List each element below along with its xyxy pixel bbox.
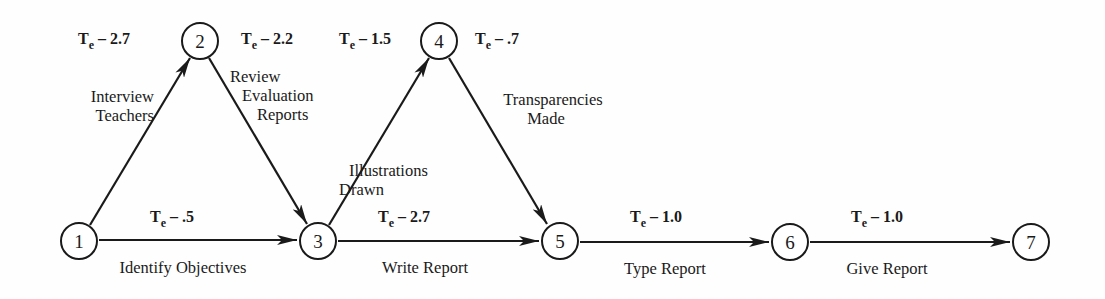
te-subscript: e — [252, 38, 257, 52]
event-node-label: 2 — [195, 32, 205, 51]
te-value: – 2.7 — [98, 30, 130, 47]
activity-label-line: Illustrations — [339, 161, 428, 180]
te-symbol: T — [475, 30, 486, 47]
event-node-label: 4 — [434, 32, 444, 51]
event-node-4: 4 — [420, 22, 458, 60]
te-subscript: e — [389, 216, 394, 230]
te-subscript: e — [641, 216, 646, 230]
activity-label-line: Evaluation — [230, 86, 313, 105]
event-node-label: 5 — [555, 232, 565, 251]
time-estimate-4-5: Te– .7 — [475, 30, 519, 48]
time-estimate-1-3: Te– .5 — [150, 208, 194, 226]
event-node-6: 6 — [771, 223, 809, 261]
te-symbol: T — [630, 208, 641, 225]
event-node-3: 3 — [299, 222, 337, 260]
activity-label-identify-objectives: Identify Objectives — [98, 258, 268, 277]
te-value: – 2.2 — [261, 30, 293, 47]
te-symbol: T — [339, 30, 350, 47]
edge-3-4 — [329, 58, 429, 225]
te-symbol: T — [378, 208, 389, 225]
te-symbol: T — [851, 208, 862, 225]
activity-label-type-report: Type Report — [600, 259, 730, 278]
te-symbol: T — [150, 208, 161, 225]
activity-label-line: Review — [230, 67, 313, 86]
te-value: – .7 — [495, 30, 519, 47]
activity-label-line: Transparencies — [486, 90, 620, 109]
activity-label-interview-teachers: Interview Teachers — [58, 87, 154, 125]
activity-label-line: Reports — [230, 105, 313, 124]
time-estimate-3-4: Te– 1.5 — [339, 30, 391, 48]
event-node-1: 1 — [60, 222, 98, 260]
activity-label-line: Identify Objectives — [98, 258, 268, 277]
event-node-label: 6 — [785, 233, 795, 252]
activity-label-give-report: Give Report — [822, 259, 952, 278]
te-subscript: e — [161, 216, 166, 230]
te-subscript: e — [862, 216, 867, 230]
activity-label-illustrations-drawn: Illustrations Drawn — [339, 161, 428, 199]
activity-label-line: Drawn — [339, 180, 428, 199]
te-symbol: T — [241, 30, 252, 47]
te-value: – 1.0 — [871, 208, 903, 225]
time-estimate-1-2: Te– 2.7 — [78, 30, 130, 48]
event-node-label: 1 — [74, 232, 84, 251]
time-estimate-3-5: Te– 2.7 — [378, 208, 430, 226]
edge-4-5 — [449, 58, 547, 224]
activity-label-transparencies-made: Transparencies Made — [486, 90, 620, 128]
activity-label-line: Give Report — [822, 259, 952, 278]
event-node-5: 5 — [541, 222, 579, 260]
time-estimate-5-6: Te– 1.0 — [630, 208, 682, 226]
te-subscript: e — [350, 38, 355, 52]
time-estimate-2-3: Te– 2.2 — [241, 30, 293, 48]
te-subscript: e — [486, 38, 491, 52]
edge-1-2 — [90, 58, 190, 225]
te-value: – 1.5 — [359, 30, 391, 47]
time-estimate-6-7: Te– 1.0 — [851, 208, 903, 226]
activity-label-review-evaluation-reports: Review Evaluation Reports — [230, 67, 313, 124]
activity-label-line: Write Report — [360, 258, 490, 277]
te-value: – 1.0 — [650, 208, 682, 225]
event-node-label: 7 — [1026, 233, 1036, 252]
activity-label-line: Interview — [58, 87, 154, 106]
te-subscript: e — [89, 38, 94, 52]
te-symbol: T — [78, 30, 89, 47]
activity-label-line: Teachers — [58, 106, 154, 125]
event-node-2: 2 — [181, 22, 219, 60]
pert-diagram: 1 2 3 4 5 6 7 Te– 2.7 Te– 2.2 Te– 1.5 Te… — [0, 0, 1105, 299]
activity-label-line: Made — [486, 109, 620, 128]
event-node-label: 3 — [313, 232, 323, 251]
te-value: – .5 — [170, 208, 194, 225]
activity-label-line: Type Report — [600, 259, 730, 278]
activity-label-write-report: Write Report — [360, 258, 490, 277]
te-value: – 2.7 — [398, 208, 430, 225]
event-node-7: 7 — [1012, 223, 1050, 261]
